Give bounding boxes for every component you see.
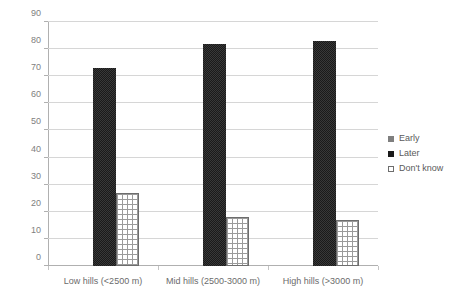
bar-later — [313, 41, 336, 266]
y-axis-label: 70 — [31, 63, 41, 72]
legend-label: Later — [399, 149, 420, 158]
x-axis-tick — [158, 266, 159, 270]
legend-item[interactable]: Early — [388, 131, 463, 146]
plot-area: 0102030405060708090 Low hills (<2500 m)M… — [48, 22, 378, 266]
x-axis-tick — [268, 266, 269, 270]
y-axis-label: 0 — [36, 253, 41, 262]
legend: EarlyLaterDon't know — [388, 131, 463, 176]
x-axis-tick — [378, 266, 379, 270]
legend-label: Don't know — [399, 164, 443, 173]
legend-item[interactable]: Later — [388, 146, 463, 161]
x-axis-category-label: Mid hills (2500-3000 m) — [166, 277, 260, 286]
legend-label: Early — [399, 134, 420, 143]
legend-swatch-early-icon — [388, 136, 394, 142]
y-axis-label: 40 — [31, 144, 41, 153]
legend-swatch-later-icon — [388, 151, 394, 157]
bar-group — [48, 22, 378, 266]
x-axis-category-label: High hills (>3000 m) — [283, 277, 363, 286]
y-axis-label: 50 — [31, 117, 41, 126]
x-axis-tick — [48, 266, 49, 270]
legend-item[interactable]: Don't know — [388, 161, 463, 176]
y-axis-label: 60 — [31, 90, 41, 99]
y-axis-label: 30 — [31, 171, 41, 180]
bar-don-t-know — [336, 220, 359, 266]
bar-chart: 0102030405060708090 Low hills (<2500 m)M… — [0, 0, 463, 300]
y-axis-label: 20 — [31, 198, 41, 207]
y-axis-label: 10 — [31, 225, 41, 234]
y-axis-label: 90 — [31, 9, 41, 18]
x-axis-category-label: Low hills (<2500 m) — [64, 277, 142, 286]
y-axis-label: 80 — [31, 36, 41, 45]
legend-swatch-dontknow-icon — [388, 166, 394, 172]
